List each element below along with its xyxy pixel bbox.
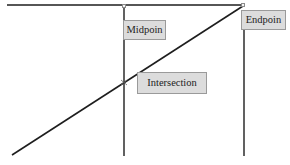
intersection-label: Intersection [137, 72, 207, 94]
midpoint-label: Midpoin [123, 20, 166, 40]
endpoint-label: Endpoin [241, 10, 286, 30]
midpoint-point-marker[interactable] [122, 4, 126, 8]
endpoint-point-marker[interactable] [241, 3, 245, 7]
